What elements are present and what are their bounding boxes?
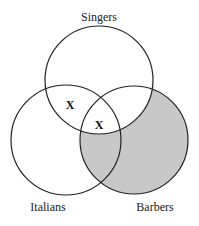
mark-x-singers-italians: X xyxy=(66,98,75,112)
shaded-region-barbers-not-singers xyxy=(0,0,199,226)
label-singers: Singers xyxy=(81,10,117,24)
label-barbers: Barbers xyxy=(136,200,174,214)
mark-x-center: X xyxy=(95,118,104,132)
label-italians: Italians xyxy=(30,200,66,214)
venn-diagram: Singers Italians Barbers X X xyxy=(0,0,199,226)
